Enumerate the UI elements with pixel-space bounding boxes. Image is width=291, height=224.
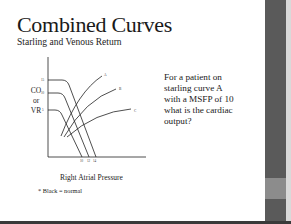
question-line: with a MSFP of 10: [164, 94, 264, 105]
x-axis-label: Right Atrial Pressure: [60, 173, 123, 182]
y-tick-15: 15: [41, 78, 45, 82]
footnote: * Black = normal: [38, 187, 82, 194]
slide-bottom-border: [0, 221, 291, 224]
starling-curve-c: [67, 109, 131, 137]
y-axis-label: CO or VR: [28, 86, 44, 116]
question-text: For a patient on starling curve A with a…: [164, 72, 264, 127]
y-axis-label-line: or: [28, 96, 44, 106]
question-line: starling curve A: [164, 83, 264, 94]
question-line: what is the cardiac: [164, 105, 264, 116]
venous-return-curve-15: [48, 80, 96, 157]
y-axis-label-line: VR: [28, 106, 44, 116]
curve-label-b: B: [119, 87, 122, 91]
x-tick-14: 14: [93, 159, 97, 163]
question-line: output?: [164, 116, 264, 127]
curve-label-c: C: [134, 109, 137, 113]
curve-label-a: A: [104, 73, 107, 77]
x-tick-10: 10: [80, 159, 84, 163]
venous-return-curve-5: [48, 110, 82, 157]
y-axis-label-line: CO: [28, 86, 44, 96]
question-line: For a patient on: [164, 72, 264, 83]
slide: Combined Curves Starling and Venous Retu…: [0, 0, 286, 221]
slide-right-edge: [286, 0, 291, 224]
starling-curve-a: [61, 76, 102, 136]
decorative-side-bar-accent: [265, 178, 286, 199]
x-tick-12: 12: [87, 159, 91, 163]
